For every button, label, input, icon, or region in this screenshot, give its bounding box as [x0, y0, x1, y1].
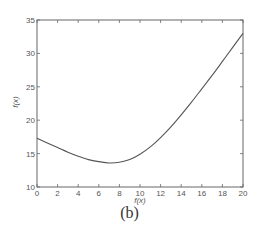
y-tick-label: 35	[26, 16, 35, 25]
figure-caption: (b)	[0, 204, 259, 222]
x-tick-label: 14	[177, 189, 186, 198]
y-tick-label: 10	[26, 183, 35, 192]
x-tick-label: 18	[218, 189, 227, 198]
x-tick-label: 2	[55, 189, 60, 198]
y-axis-label: f(x)	[11, 96, 20, 108]
x-tick-label: 20	[239, 189, 248, 198]
y-tick-label: 15	[26, 150, 35, 159]
y-tick-label: 30	[26, 49, 35, 58]
data-line	[37, 33, 243, 163]
x-tick-label: 4	[76, 189, 81, 198]
axes-box	[37, 20, 243, 187]
y-tick-label: 25	[26, 83, 35, 92]
axis-ticks	[37, 20, 243, 187]
x-tick-label: 8	[117, 189, 122, 198]
x-tick-label: 12	[156, 189, 165, 198]
x-tick-label: 16	[197, 189, 206, 198]
plot-frame	[37, 20, 243, 187]
x-tick-label: 6	[97, 189, 102, 198]
x-tick-label: 0	[35, 189, 40, 198]
y-tick-label: 20	[26, 116, 35, 125]
axis-tick-labels: 02468101214161820101520253035	[26, 16, 248, 198]
